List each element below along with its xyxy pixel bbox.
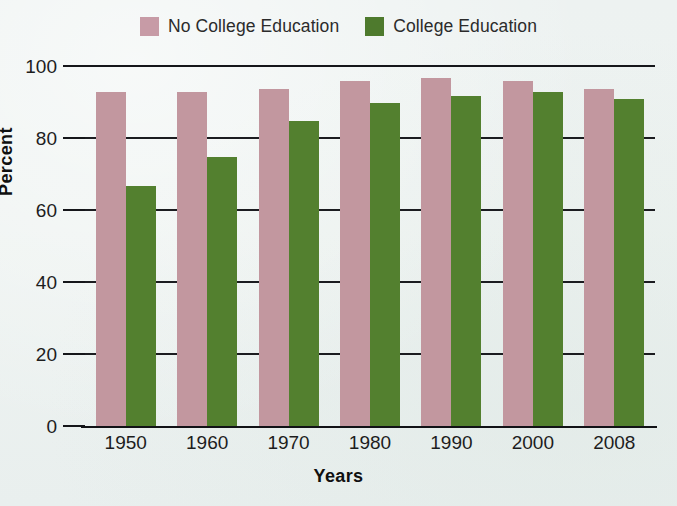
bar-1950-college bbox=[126, 186, 156, 427]
legend-label-no-college: No College Education bbox=[168, 16, 339, 37]
bar-1960-college bbox=[207, 157, 237, 427]
legend-label-college: College Education bbox=[393, 16, 537, 37]
bar-group-2008 bbox=[584, 67, 644, 427]
chart-legend: No College Education College Education bbox=[0, 16, 677, 37]
x-axis-title: Years bbox=[0, 466, 677, 487]
x-axis-tick-labels: 1950196019701980199020002008 bbox=[85, 432, 655, 462]
bar-1970-college bbox=[289, 121, 319, 427]
bar-group-1990 bbox=[421, 67, 481, 427]
legend-entry-no-college: No College Education bbox=[140, 16, 339, 37]
bar-group-1950 bbox=[96, 67, 156, 427]
bar-1970-no-college bbox=[259, 89, 289, 427]
bar-1990-no-college bbox=[421, 78, 451, 427]
y-tick-label-80: 80 bbox=[36, 128, 57, 150]
bar-2000-college bbox=[533, 92, 563, 427]
y-tick-label-100: 100 bbox=[25, 56, 57, 78]
x-tick-label-1970: 1970 bbox=[267, 432, 309, 454]
x-axis-line bbox=[81, 426, 657, 428]
legend-swatch-college bbox=[365, 17, 384, 36]
x-tick-label-1960: 1960 bbox=[186, 432, 228, 454]
x-tick-label-2000: 2000 bbox=[512, 432, 554, 454]
x-tick-label-1950: 1950 bbox=[105, 432, 147, 454]
bar-group-1960 bbox=[177, 67, 237, 427]
bar-1980-college bbox=[370, 103, 400, 427]
y-tick-80 bbox=[63, 137, 85, 139]
y-tick-label-60: 60 bbox=[36, 200, 57, 222]
bar-series-container bbox=[85, 67, 655, 427]
y-tick-60 bbox=[63, 209, 85, 211]
bar-group-1980 bbox=[340, 67, 400, 427]
x-tick-label-2008: 2008 bbox=[593, 432, 635, 454]
x-tick-label-1980: 1980 bbox=[349, 432, 391, 454]
bar-group-1970 bbox=[259, 67, 319, 427]
y-tick-20 bbox=[63, 353, 85, 355]
legend-entry-college: College Education bbox=[365, 16, 537, 37]
plot-area bbox=[85, 67, 655, 427]
bar-2008-no-college bbox=[584, 89, 614, 427]
bar-2000-no-college bbox=[503, 81, 533, 427]
y-tick-label-0: 0 bbox=[46, 416, 57, 438]
y-axis-title: Percent bbox=[0, 127, 17, 196]
y-tick-100 bbox=[63, 65, 85, 67]
bar-group-2000 bbox=[503, 67, 563, 427]
y-tick-label-40: 40 bbox=[36, 272, 57, 294]
bar-1950-no-college bbox=[96, 92, 126, 427]
bar-2008-college bbox=[614, 99, 644, 427]
x-tick-label-1990: 1990 bbox=[430, 432, 472, 454]
legend-swatch-no-college bbox=[140, 17, 159, 36]
bar-1960-no-college bbox=[177, 92, 207, 427]
y-axis-tick-labels: 020406080100 bbox=[0, 0, 85, 506]
y-tick-40 bbox=[63, 281, 85, 283]
y-tick-label-20: 20 bbox=[36, 344, 57, 366]
bar-1980-no-college bbox=[340, 81, 370, 427]
bar-1990-college bbox=[451, 96, 481, 427]
